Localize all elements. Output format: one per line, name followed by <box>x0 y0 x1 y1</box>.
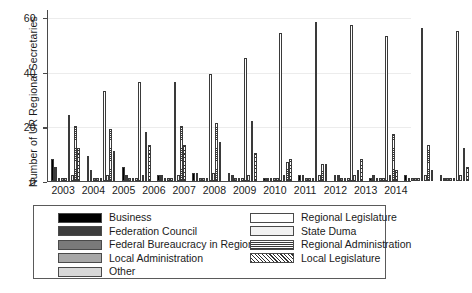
y-tick-label: 40 <box>24 67 36 79</box>
bar <box>244 58 247 181</box>
legend-item[interactable]: Federation Council <box>58 226 244 237</box>
bar-group-2009 <box>260 10 295 181</box>
bar <box>238 178 241 181</box>
bar <box>283 175 286 180</box>
legend-column-left: BusinessFederation CouncilFederal Bureau… <box>34 212 244 278</box>
bar <box>167 178 170 181</box>
bar <box>344 178 347 181</box>
bar <box>93 178 96 181</box>
bar <box>392 134 395 180</box>
bar <box>77 148 80 181</box>
legend-item[interactable]: Regional Legislature <box>250 212 411 223</box>
legend-label: Local Legislature <box>301 253 380 264</box>
bar <box>372 175 375 180</box>
legend-swatch-icon <box>58 240 102 250</box>
legend-label: Regional Legislature <box>301 212 397 223</box>
bar <box>251 121 254 181</box>
legend-swatch-icon <box>250 213 294 223</box>
legend-swatch-icon <box>250 240 294 250</box>
x-tick-label: 2008 <box>199 184 229 196</box>
x-tick-label: 2012 <box>320 184 350 196</box>
legend-item[interactable]: Other <box>58 266 244 277</box>
bar <box>302 175 305 180</box>
bar <box>51 159 54 181</box>
bar <box>215 123 218 180</box>
bar <box>266 178 269 181</box>
bar <box>382 178 385 181</box>
bar <box>142 175 145 180</box>
bar <box>312 178 315 181</box>
bar <box>247 175 250 180</box>
bar <box>103 91 106 181</box>
legend-swatch-icon <box>250 226 294 236</box>
bar <box>289 159 292 181</box>
bar-group-2012 <box>366 10 401 181</box>
legend-item[interactable]: Regional Administration <box>250 239 411 250</box>
bar <box>113 151 116 181</box>
bar <box>202 178 205 181</box>
bar <box>270 178 273 181</box>
bar <box>424 175 427 180</box>
legend-item[interactable]: Business <box>58 212 244 223</box>
bar <box>254 153 257 180</box>
y-tick: 60 <box>43 18 48 19</box>
legend-label: Federal Bureaucracy in Region <box>109 239 254 250</box>
plot-area: 0204060 <box>47 10 411 182</box>
bar <box>357 170 360 181</box>
legend-label: Federation Council <box>109 226 197 237</box>
bar <box>231 175 234 180</box>
bar <box>466 167 469 181</box>
bar <box>145 132 148 181</box>
y-tick-label: 0 <box>30 176 36 188</box>
x-tick-label: 2006 <box>139 184 169 196</box>
bar <box>132 178 135 181</box>
legend-item[interactable]: Federal Bureaucracy in Region <box>58 239 244 250</box>
bar <box>228 173 231 181</box>
bar <box>263 178 266 181</box>
bar <box>395 170 398 181</box>
bar <box>369 178 372 181</box>
bar <box>414 178 417 181</box>
legend-label: Business <box>109 212 152 223</box>
bar-group-2013 <box>401 10 436 181</box>
bar <box>192 173 195 181</box>
chart-legend: BusinessFederation CouncilFederal Bureau… <box>33 205 386 279</box>
bar <box>157 175 160 180</box>
legend-label: State Duma <box>301 226 356 237</box>
legend-swatch-icon <box>58 213 102 223</box>
bar <box>337 175 340 180</box>
bar <box>170 178 173 181</box>
bar <box>459 175 462 180</box>
x-tick-label: 2011 <box>290 184 320 196</box>
bar <box>276 178 279 181</box>
bar <box>286 162 289 181</box>
legend-item[interactable]: Local Administration <box>58 253 244 264</box>
legend-item[interactable]: Local Legislature <box>250 253 411 264</box>
bar <box>96 178 99 181</box>
y-tick: 20 <box>43 127 48 128</box>
y-tick: 40 <box>43 73 48 74</box>
bar <box>212 173 215 181</box>
legend-item[interactable]: State Duma <box>250 226 411 237</box>
legend-label: Other <box>109 266 135 277</box>
legend-swatch-icon <box>250 253 294 263</box>
legend-label: Regional Administration <box>301 239 411 250</box>
bar <box>353 175 356 180</box>
bar <box>360 159 363 181</box>
y-tick: 0 <box>43 182 48 183</box>
bar <box>122 167 125 181</box>
bar <box>421 28 424 181</box>
bar-group-2011 <box>331 10 366 181</box>
legend-column-right: Regional LegislatureState DumaRegional A… <box>244 212 411 278</box>
bar-group-2005 <box>119 10 154 181</box>
bar <box>385 36 388 181</box>
bar <box>298 175 301 180</box>
bar-group-2007 <box>189 10 224 181</box>
legend-swatch-icon <box>58 253 102 263</box>
bar <box>71 175 74 180</box>
bar <box>87 156 90 181</box>
bar <box>411 178 414 181</box>
x-tick-label: 2003 <box>48 184 78 196</box>
bar <box>340 178 343 181</box>
bar <box>138 82 141 180</box>
